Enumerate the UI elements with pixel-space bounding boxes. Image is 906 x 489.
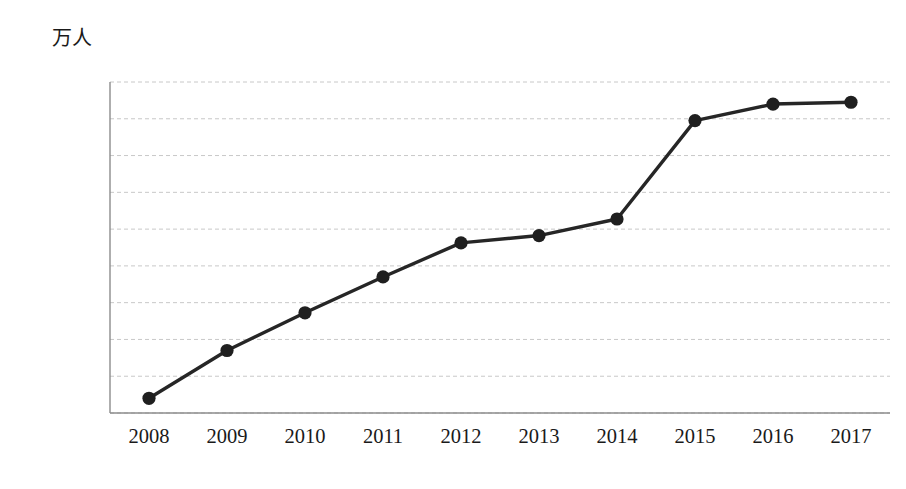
- x-tick-label: 2015: [675, 426, 716, 447]
- x-tick-label: 2011: [363, 426, 403, 447]
- x-tick-label: 2010: [285, 426, 326, 447]
- line-chart: 万人 180.00 178.00 176.00 174.00 172.00 17…: [0, 0, 906, 489]
- data-point-marker: [532, 229, 545, 242]
- x-tick-label: 2016: [753, 426, 794, 447]
- axis-lines: [110, 82, 890, 413]
- x-tick-label: 2014: [597, 426, 638, 447]
- data-point-markers: [142, 96, 857, 405]
- data-point-marker: [142, 392, 155, 405]
- plot-area: [0, 0, 906, 489]
- x-tick-label: 2017: [831, 426, 872, 447]
- data-line: [149, 102, 851, 398]
- data-point-marker: [610, 212, 623, 225]
- x-tick-label: 2013: [519, 426, 560, 447]
- x-tick-label: 2008: [129, 426, 170, 447]
- data-point-marker: [376, 270, 389, 283]
- x-tick-label: 2009: [207, 426, 248, 447]
- x-tick-label: 2012: [441, 426, 482, 447]
- gridlines: [110, 82, 890, 413]
- data-point-marker: [454, 236, 467, 249]
- data-point-marker: [298, 306, 311, 319]
- data-point-marker: [844, 96, 857, 109]
- data-point-marker: [688, 114, 701, 127]
- data-point-marker: [220, 344, 233, 357]
- data-point-marker: [766, 97, 779, 110]
